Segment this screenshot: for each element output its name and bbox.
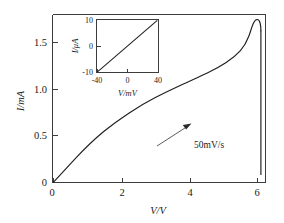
- inset-y-tick-label-10: 10: [85, 16, 93, 25]
- inset-x-tick-label-0: 0: [126, 76, 130, 85]
- inset-y-tick-label-0: 0: [89, 42, 93, 51]
- inset-x-tick-label-40: 40: [154, 76, 162, 85]
- y-tick-label-1.5: 1.5: [34, 37, 47, 48]
- sweep-rate-label: 50mV/s: [194, 140, 224, 150]
- x-tick-label-6: 6: [254, 187, 259, 198]
- x-tick-label-2: 2: [119, 187, 124, 198]
- x-tick-label-4: 4: [187, 187, 193, 198]
- inset-x-axis-title: V/mV: [118, 88, 139, 98]
- inset-x-tick-label-minus40: -40: [92, 76, 103, 85]
- x-axis-title: V/V: [150, 205, 167, 216]
- inset-y-axis-title: I/μA: [70, 38, 80, 54]
- y-tick-label-0: 0: [42, 177, 47, 188]
- y-axis-title: I/mA: [15, 90, 26, 112]
- figure-panel: 0 0.5 1.0 1.5 0 2 4 6 V/V I/mA: [0, 0, 284, 223]
- y-tick-label-0.5: 0.5: [34, 130, 47, 141]
- y-tick-label-1.0: 1.0: [34, 84, 47, 95]
- x-tick-label-0: 0: [49, 187, 54, 198]
- iv-curve-chart: 0 0.5 1.0 1.5 0 2 4 6 V/V I/mA: [0, 0, 284, 223]
